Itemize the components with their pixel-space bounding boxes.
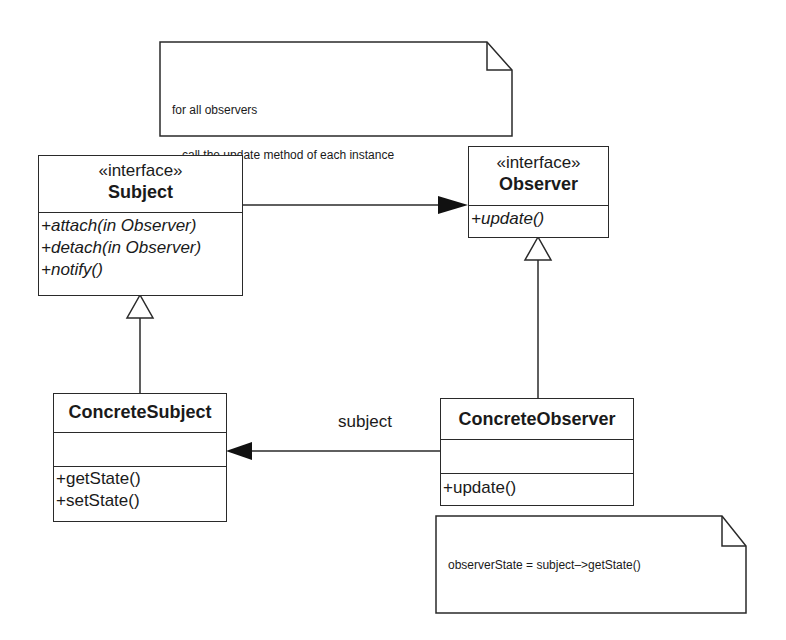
class-concreteobserver-attributes (441, 439, 633, 473)
operation-update: +update() (469, 208, 608, 230)
class-concretesubject[interactable]: ConcreteSubject +getState() +setState() (53, 393, 227, 522)
class-subject-header: «interface» Subject (39, 156, 242, 212)
class-observer[interactable]: «interface» Observer +update() (468, 146, 609, 238)
class-name: Subject (39, 181, 242, 203)
operation-notify: +notify() (39, 259, 242, 281)
class-observer-operations: +update() (469, 205, 608, 230)
note-bottom-text: observerState = subject–>getState() (448, 558, 641, 573)
class-observer-header: «interface» Observer (469, 147, 608, 205)
class-concreteobserver[interactable]: ConcreteObserver +update() (440, 398, 634, 506)
operation-detach: +detach(in Observer) (39, 237, 242, 259)
operation-setstate: +setState() (54, 490, 226, 512)
operation-update: +update() (441, 477, 633, 499)
note-top-line1: for all observers (172, 103, 394, 118)
class-subject[interactable]: «interface» Subject +attach(in Observer)… (38, 155, 243, 296)
hollow-triangle-icon (127, 295, 153, 318)
class-concretesubject-header: ConcreteSubject (54, 394, 226, 432)
operation-attach: +attach(in Observer) (39, 215, 242, 237)
association-role-label: subject (338, 412, 392, 432)
arrowhead-filled-icon (226, 442, 252, 460)
arrowhead-filled-icon (438, 196, 468, 214)
generalization-concreteobserver-observer (525, 237, 551, 398)
class-subject-operations: +attach(in Observer) +detach(in Observer… (39, 212, 242, 281)
class-name: ConcreteSubject (54, 401, 226, 423)
generalization-concretesubject-subject (127, 295, 153, 393)
class-name: Observer (469, 173, 608, 195)
association-subject-observer (242, 196, 468, 214)
class-name: ConcreteObserver (441, 408, 633, 430)
stereotype-label: «interface» (469, 153, 608, 173)
class-concretesubject-attributes (54, 432, 226, 466)
association-concreteobserver-concretesubject (226, 442, 440, 460)
class-concreteobserver-operations: +update() (441, 473, 633, 499)
class-concreteobserver-header: ConcreteObserver (441, 399, 633, 439)
operation-getstate: +getState() (54, 468, 226, 490)
stereotype-label: «interface» (39, 161, 242, 181)
hollow-triangle-icon (525, 237, 551, 260)
class-concretesubject-operations: +getState() +setState() (54, 466, 226, 512)
